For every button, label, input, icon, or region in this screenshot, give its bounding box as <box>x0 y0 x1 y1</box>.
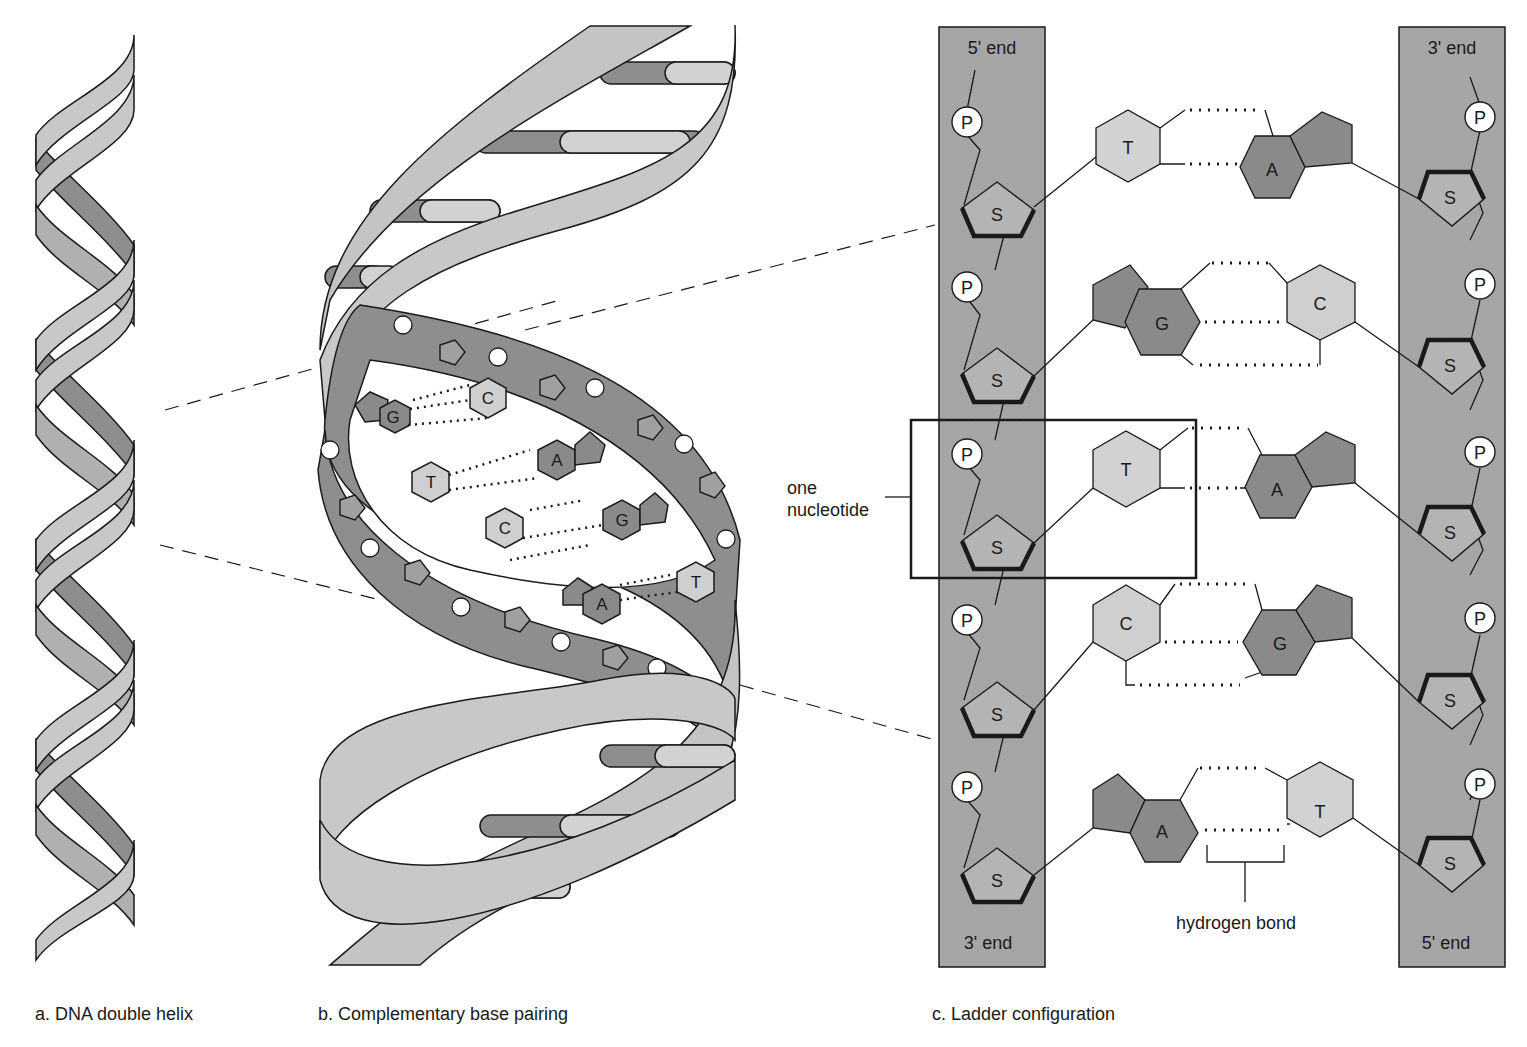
svg-text:P: P <box>961 278 973 298</box>
svg-text:C: C <box>499 519 511 538</box>
svg-text:P: P <box>961 611 973 631</box>
left-strand-top-label: 5' end <box>968 38 1016 58</box>
panel-c-ladder: 5' end 3' end 3' end 5' end P P P P P P … <box>885 27 1505 967</box>
svg-text:P: P <box>1474 775 1486 795</box>
panel-b-base-pairing-helix: G C T A C G A T <box>318 25 740 965</box>
svg-text:S: S <box>991 538 1003 558</box>
svg-text:S: S <box>991 371 1003 391</box>
svg-text:P: P <box>961 778 973 798</box>
panel-a-double-helix <box>36 35 134 960</box>
svg-text:G: G <box>1273 634 1287 654</box>
svg-text:P: P <box>961 445 973 465</box>
svg-text:P: P <box>961 113 973 133</box>
svg-text:T: T <box>426 473 436 492</box>
svg-text:A: A <box>1156 822 1168 842</box>
one-nucleotide-label: one nucleotide <box>787 477 869 521</box>
svg-text:C: C <box>482 389 494 408</box>
svg-text:G: G <box>1155 314 1169 334</box>
caption-panel-b: b. Complementary base pairing <box>318 1004 568 1025</box>
ladder-row-3 <box>1034 428 1419 543</box>
svg-text:T: T <box>1121 460 1132 480</box>
svg-text:A: A <box>1266 160 1278 180</box>
ladder-row-2 <box>1034 263 1419 376</box>
ladder-row-1 <box>1034 110 1419 207</box>
svg-text:S: S <box>1444 854 1456 874</box>
svg-text:S: S <box>1444 188 1456 208</box>
right-strand-bottom-label: 5' end <box>1422 933 1470 953</box>
hydrogen-bond-label: hydrogen bond <box>1176 912 1296 934</box>
svg-text:T: T <box>691 573 701 592</box>
svg-text:S: S <box>1444 691 1456 711</box>
caption-panel-c: c. Ladder configuration <box>932 1004 1115 1025</box>
svg-text:P: P <box>1474 609 1486 629</box>
svg-text:G: G <box>615 511 628 530</box>
svg-text:A: A <box>1271 480 1283 500</box>
left-strand-bottom-label: 3' end <box>964 933 1012 953</box>
right-strand-top-label: 3' end <box>1428 38 1476 58</box>
ladder-row-4 <box>1034 584 1419 710</box>
ladder-row-5 <box>1034 762 1419 875</box>
dna-structure-figure: G C T A C G A T <box>0 0 1527 1047</box>
svg-text:P: P <box>1474 443 1486 463</box>
svg-text:T: T <box>1315 802 1326 822</box>
hydrogen-bond-bracket <box>1207 845 1284 902</box>
svg-text:T: T <box>1123 138 1134 158</box>
svg-text:P: P <box>1474 108 1486 128</box>
svg-text:A: A <box>551 451 563 470</box>
caption-panel-a: a. DNA double helix <box>35 1004 193 1025</box>
svg-text:S: S <box>991 871 1003 891</box>
svg-text:S: S <box>1444 523 1456 543</box>
svg-text:S: S <box>991 205 1003 225</box>
svg-text:C: C <box>1120 614 1133 634</box>
svg-text:G: G <box>386 408 399 427</box>
svg-text:A: A <box>596 595 608 614</box>
svg-text:S: S <box>991 705 1003 725</box>
svg-text:S: S <box>1444 356 1456 376</box>
svg-text:P: P <box>1474 275 1486 295</box>
svg-text:C: C <box>1314 294 1327 314</box>
